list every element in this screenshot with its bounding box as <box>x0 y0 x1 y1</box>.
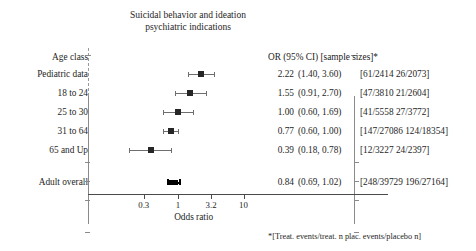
confidence-interval-cap-upper <box>214 72 215 77</box>
row-tick-left <box>85 162 90 163</box>
statistics-row: 0.77(0.60, 1.00)[147/27086 124/18354] <box>268 126 476 138</box>
confidence-interval-value: (0.60, 1.00) <box>298 126 352 136</box>
confidence-interval-cap-lower <box>163 110 164 115</box>
confidence-interval-cap-upper <box>171 148 172 153</box>
x-axis-tick-3.2 <box>211 194 212 199</box>
row-label-column: Age classPediatric data18 to 2425 to 303… <box>0 0 88 251</box>
x-axis-tick-10 <box>244 194 245 199</box>
footnote: *[Treat. events/treat. n plac. events/pl… <box>268 232 421 241</box>
sample-sizes-value: [47/3810 21/2604] <box>360 88 429 98</box>
odds-ratio-value: 2.22 <box>268 69 294 79</box>
forest-plot-figure: Suicidal behavior and ideation psychiatr… <box>0 0 476 251</box>
confidence-interval-cap-lower <box>163 129 164 134</box>
x-axis-tick-1 <box>178 194 179 199</box>
sample-sizes-value: [12/3227 24/2397] <box>360 145 429 155</box>
sample-sizes-value: [41/5558 27/3772] <box>360 107 429 117</box>
statistics-column-header: OR (95% CI) [sample sizes]* <box>268 52 378 62</box>
row-label-adult-overall: Adult overall <box>0 177 88 187</box>
x-axis: Odds ratio 0.313.210 <box>88 194 388 234</box>
row-label-header: Age class <box>0 52 88 62</box>
confidence-interval-value: (0.91, 2.70) <box>298 88 352 98</box>
odds-ratio-value: 1.55 <box>268 88 294 98</box>
confidence-interval-cap-lower <box>129 148 130 153</box>
confidence-interval-value: (0.60, 1.69) <box>298 107 352 117</box>
odds-ratio-value: 1.00 <box>268 107 294 117</box>
point-estimate-marker <box>148 147 154 153</box>
statistics-row: 0.84(0.69, 1.02)[248/39729 196/27164] <box>268 177 476 189</box>
statistics-row: 1.55(0.91, 2.70)[47/3810 21/2604] <box>268 88 476 100</box>
sample-sizes-value: [147/27086 124/18354] <box>360 126 448 136</box>
confidence-interval-cap-upper <box>179 179 181 185</box>
point-estimate-marker <box>187 90 193 96</box>
chart-title-line-2: psychiatric indications <box>88 21 288 33</box>
x-axis-line <box>88 194 388 195</box>
confidence-interval-value: (1.40, 3.60) <box>298 69 352 79</box>
statistics-row: 2.22(1.40, 3.60)[61/2414 26/2073] <box>268 69 476 81</box>
confidence-interval-value: (0.69, 1.02) <box>298 177 352 187</box>
point-estimate-marker <box>168 128 174 134</box>
sample-sizes-value: [248/39729 196/27164] <box>360 177 448 187</box>
confidence-interval-cap-upper <box>178 129 179 134</box>
point-estimate-marker <box>175 109 181 115</box>
overall-effect-marker <box>169 180 178 185</box>
sample-sizes-value: [61/2414 26/2073] <box>360 69 429 79</box>
odds-ratio-value: 0.77 <box>268 126 294 136</box>
chart-title-line-1: Suicidal behavior and ideation <box>130 10 246 20</box>
confidence-interval-cap-upper <box>206 91 207 96</box>
row-label-25-to-30: 25 to 30 <box>0 107 88 117</box>
row-label-65-and-up: 65 and Up <box>0 145 88 155</box>
confidence-interval-cap-lower <box>175 91 176 96</box>
point-estimate-marker <box>198 71 204 77</box>
x-axis-title: Odds ratio <box>114 212 274 222</box>
statistics-row: 0.39(0.18, 0.78)[12/3227 24/2397] <box>268 145 476 157</box>
confidence-interval-value: (0.18, 0.78) <box>298 145 352 155</box>
row-label-pediatric-data: Pediatric data <box>0 69 88 79</box>
statistics-row: 1.00(0.60, 1.69)[41/5558 27/3772] <box>268 107 476 119</box>
plot-area <box>88 44 268 194</box>
row-tick-left <box>85 181 90 182</box>
confidence-interval-cap-upper <box>193 110 194 115</box>
confidence-interval-cap-lower <box>188 72 189 77</box>
x-axis-tick-0.3 <box>144 194 145 199</box>
odds-ratio-value: 0.39 <box>268 145 294 155</box>
x-axis-tick-label-10: 10 <box>224 200 264 210</box>
header-tick-left <box>85 55 91 56</box>
chart-title: Suicidal behavior and ideation psychiatr… <box>88 9 288 33</box>
row-label-31-to-64: 31 to 64 <box>0 126 88 136</box>
row-label-18-to-24: 18 to 24 <box>0 88 88 98</box>
odds-ratio-value: 0.84 <box>268 177 294 187</box>
